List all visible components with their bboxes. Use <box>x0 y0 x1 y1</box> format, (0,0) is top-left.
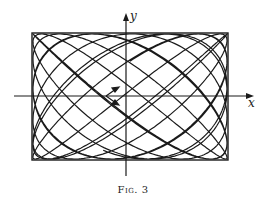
y-axis-arrow-icon <box>123 13 129 21</box>
x-axis-label: x <box>248 96 255 110</box>
lissajous-figure <box>0 0 266 204</box>
y-axis-label: y <box>130 9 137 23</box>
figure-caption: Fig. 3 <box>0 184 266 195</box>
